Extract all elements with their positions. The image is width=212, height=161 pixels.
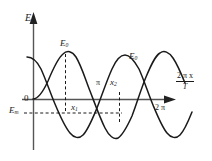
y-axis-label: E — [25, 13, 31, 23]
right-curve-label: E0 — [129, 52, 137, 62]
x1-label-subscript: 1 — [75, 106, 78, 112]
x-position-label-x2: x2 — [110, 78, 117, 88]
y-axis — [30, 12, 38, 150]
peak-label-subscript: 0 — [66, 42, 69, 48]
x-axis-label-denominator: T — [176, 82, 194, 91]
x-tick-2pi: 2 π — [155, 104, 165, 112]
right-curve-label-subscript: 0 — [135, 55, 138, 61]
curve-e1 — [27, 55, 192, 137]
wave-diagram-figure: E 0 E0 E0 Em π x2 x1 2 π 2 π x T — [0, 0, 212, 161]
min-level-label-em: Em — [9, 106, 19, 116]
x2-label-subscript: 2 — [114, 81, 117, 87]
x-position-label-x1: x1 — [71, 103, 78, 113]
x-axis-label-fraction: 2 π x T — [176, 72, 194, 91]
x-tick-pi: π — [96, 79, 100, 87]
peak-label-e0: E0 — [60, 39, 68, 49]
origin-label: 0 — [24, 94, 29, 103]
min-level-label-subscript: m — [15, 109, 19, 115]
x-axis-label-numerator: 2 π x — [176, 72, 194, 82]
